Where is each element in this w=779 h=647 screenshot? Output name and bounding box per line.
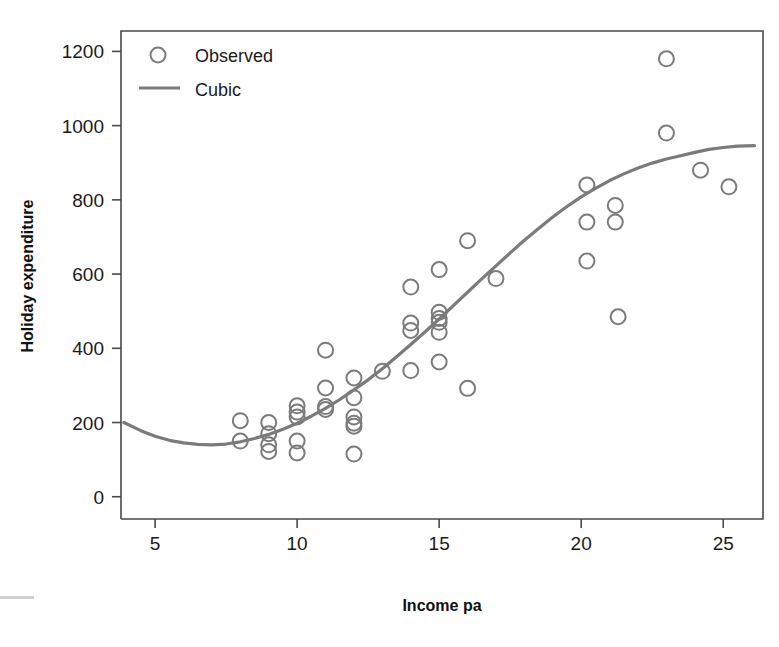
x-tick-label: 15 — [429, 533, 450, 554]
page-edge-artifact — [0, 596, 34, 599]
x-axis-title: Income pa — [402, 597, 481, 614]
x-tick-label: 20 — [571, 533, 592, 554]
y-tick-label: 400 — [72, 338, 104, 359]
chart-figure: 020040060080010001200 510152025 Observed… — [0, 0, 779, 647]
y-axis-title: Holiday expenditure — [19, 199, 36, 352]
y-tick-label: 1200 — [62, 41, 104, 62]
y-tick-label: 600 — [72, 264, 104, 285]
legend-cubic-label: Cubic — [195, 80, 241, 100]
scatter-plot-svg: 020040060080010001200 510152025 Observed… — [0, 0, 779, 647]
y-tick-label: 800 — [72, 190, 104, 211]
y-tick-label: 1000 — [62, 116, 104, 137]
legend-observed-label: Observed — [195, 46, 273, 66]
y-tick-label: 200 — [72, 413, 104, 434]
y-tick-label: 0 — [93, 487, 104, 508]
x-tick-label: 10 — [287, 533, 308, 554]
x-tick-label: 25 — [713, 533, 734, 554]
x-tick-label: 5 — [150, 533, 161, 554]
plot-background — [0, 0, 779, 647]
